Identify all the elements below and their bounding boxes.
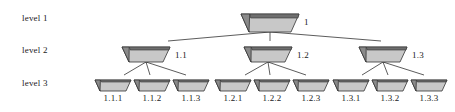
level-label-3: level 3 [22, 78, 48, 88]
tree-edge [383, 62, 388, 75]
tree-node-1-3-1[interactable] [333, 80, 369, 91]
tree-edge [270, 32, 381, 41]
node-left-wedge [372, 80, 377, 91]
node-top-bar [129, 47, 170, 50]
node-top-bar [251, 47, 292, 50]
node-left-wedge [134, 80, 139, 91]
tree-edge [362, 62, 383, 75]
level-label-1: level 1 [22, 13, 48, 23]
tree-node-1-1-2[interactable] [134, 80, 170, 91]
tree-node-1-2-3[interactable] [293, 80, 329, 91]
node-left-wedge [215, 80, 220, 91]
node-label-1: 1 [304, 17, 309, 27]
node-label-1-1: 1.1 [175, 50, 187, 60]
tree-node-1-1-3[interactable] [173, 80, 209, 91]
node-top-bar [366, 47, 407, 50]
tree-edge [268, 62, 270, 75]
node-label-1-3-1: 1.3.1 [331, 93, 371, 103]
node-label-1-1-1: 1.1.1 [93, 93, 133, 103]
node-top-bar [178, 80, 209, 82]
node-top-bar [338, 80, 369, 82]
tree-edge [146, 62, 186, 75]
node-label-1-1-2: 1.1.2 [132, 93, 172, 103]
node-left-wedge [254, 80, 259, 91]
nodes-group [95, 14, 447, 91]
node-left-wedge [122, 47, 129, 62]
node-top-bar [250, 14, 299, 18]
tree-node-1-1-1[interactable] [95, 80, 131, 91]
tree-node-1-1[interactable] [122, 47, 170, 62]
node-top-bar [100, 80, 131, 82]
tree-edge [168, 32, 270, 41]
node-label-1-3: 1.3 [412, 50, 424, 60]
node-top-bar [416, 80, 447, 82]
node-label-1-1-3: 1.1.3 [171, 93, 211, 103]
tree-node-1-2[interactable] [244, 47, 292, 62]
node-left-wedge [411, 80, 416, 91]
node-top-bar [259, 80, 290, 82]
node-left-wedge [293, 80, 298, 91]
tree-edge [383, 62, 424, 75]
tree-edge [245, 62, 268, 75]
tree-node-1-3-3[interactable] [411, 80, 447, 91]
tree-node-1-3[interactable] [359, 47, 407, 62]
node-top-bar [220, 80, 251, 82]
node-label-1-2-1: 1.2.1 [213, 93, 253, 103]
tree-node-1-2-1[interactable] [215, 80, 251, 91]
node-label-1-3-3: 1.3.3 [409, 93, 449, 103]
node-top-bar [139, 80, 170, 82]
node-left-wedge [95, 80, 100, 91]
tree-edge [124, 62, 146, 75]
tree-node-1-3-2[interactable] [372, 80, 408, 91]
node-label-1-3-2: 1.3.2 [370, 93, 410, 103]
node-left-wedge [359, 47, 366, 62]
node-label-1-2-2: 1.2.2 [252, 93, 292, 103]
node-left-wedge [241, 14, 250, 32]
node-label-1-2-3: 1.2.3 [291, 93, 331, 103]
tree-edge [268, 62, 306, 75]
tree-node-1[interactable] [241, 14, 299, 32]
node-top-bar [298, 80, 329, 82]
tree-node-1-2-2[interactable] [254, 80, 290, 91]
node-top-bar [377, 80, 408, 82]
node-label-1-2: 1.2 [297, 50, 309, 60]
tree-diagram-canvas: level 1level 2level 3 11.11.21.31.1.11.1… [0, 0, 455, 112]
node-left-wedge [173, 80, 178, 91]
level-label-2: level 2 [22, 45, 48, 55]
node-left-wedge [333, 80, 338, 91]
node-left-wedge [244, 47, 251, 62]
tree-edge [146, 62, 150, 75]
